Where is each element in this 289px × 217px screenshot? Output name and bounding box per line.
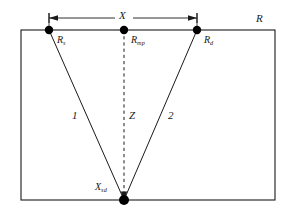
label-region-base: R [256, 12, 263, 24]
node-midpoint-dot [120, 26, 128, 34]
label-depth-base: Z [129, 109, 135, 121]
label-detector-subscript: d [210, 39, 213, 46]
label-depth: Z [129, 110, 135, 121]
label-path-one: 1 [72, 110, 78, 121]
label-separation: X [119, 10, 126, 21]
diagram-canvas: Rs Rmp Rd R X Z 1 2 Xsd [0, 0, 289, 217]
node-source-dot [45, 26, 53, 34]
dimension-arrow-left-icon [49, 15, 58, 21]
node-detector-dot [193, 26, 201, 34]
label-vertex-subscript: sd [101, 186, 107, 193]
label-separation-base: X [119, 9, 126, 21]
label-region: R [256, 13, 263, 24]
label-path-two-base: 2 [168, 109, 174, 121]
label-path-one-base: 1 [72, 109, 78, 121]
label-midpoint-subscript: mp [137, 39, 145, 46]
region-boundary-rect [21, 30, 275, 200]
label-source-subscript: s [63, 39, 66, 46]
label-path-two: 2 [168, 110, 174, 121]
label-midpoint: Rmp [131, 35, 145, 45]
label-vertex: Xsd [95, 182, 107, 192]
diagram-graphics [0, 0, 289, 217]
node-vertex-dot [119, 195, 129, 205]
label-detector: Rd [204, 35, 213, 45]
dimension-arrow-right-icon [188, 15, 197, 21]
label-source: Rs [57, 35, 66, 45]
